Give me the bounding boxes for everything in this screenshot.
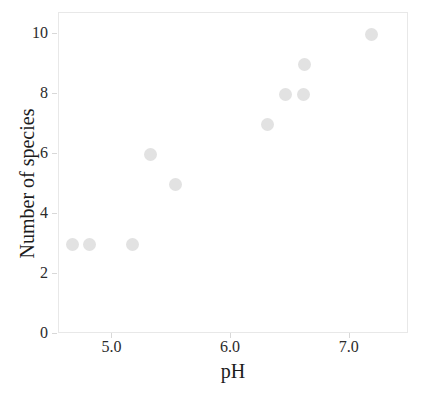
data-point: [126, 238, 139, 251]
x-axis-tick-label: 7.0: [319, 338, 379, 356]
x-axis-title: pH: [58, 360, 408, 383]
y-axis-tick-mark: [52, 213, 57, 214]
x-axis-tick-label: 5.0: [81, 338, 141, 356]
data-point: [298, 58, 311, 71]
data-point: [169, 178, 182, 191]
x-axis-tick-label: 6.0: [200, 338, 260, 356]
data-point: [365, 28, 378, 41]
data-point: [83, 238, 96, 251]
y-axis-tick-mark: [52, 333, 57, 334]
y-axis-tick-mark: [52, 153, 57, 154]
y-axis-tick-mark: [52, 273, 57, 274]
data-point: [66, 238, 79, 251]
data-point: [144, 148, 157, 161]
data-point: [279, 88, 292, 101]
plot-area: [58, 12, 408, 333]
scatter-plot-figure: 0246810 5.06.07.0 pH Number of species: [0, 0, 425, 403]
x-axis-tick-mark: [230, 333, 231, 338]
y-axis-tick-label: 10: [22, 24, 48, 42]
y-axis-tick-mark: [52, 33, 57, 34]
x-axis-tick-mark: [349, 333, 350, 338]
x-axis-tick-mark: [111, 333, 112, 338]
y-axis-tick-mark: [52, 93, 57, 94]
y-axis-title: Number of species: [16, 84, 39, 284]
data-point: [261, 118, 274, 131]
y-axis-tick-label: 0: [22, 324, 48, 342]
data-point: [297, 88, 310, 101]
